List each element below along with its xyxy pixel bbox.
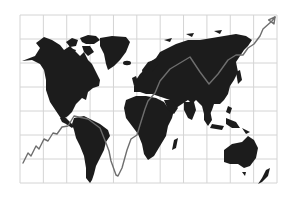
new-zealand-shape bbox=[258, 168, 270, 184]
arctic-islands-shape bbox=[66, 35, 100, 56]
south-america-shape bbox=[72, 116, 110, 183]
india-shape bbox=[184, 102, 196, 120]
japan-shape bbox=[236, 70, 242, 84]
australia-shape bbox=[224, 136, 258, 168]
tasmania-shape bbox=[242, 172, 246, 176]
iceland-shape bbox=[123, 61, 131, 65]
philippines-shape bbox=[226, 106, 232, 114]
southeast-asia-shape bbox=[204, 110, 250, 134]
world-map-trend-illustration bbox=[0, 0, 294, 199]
madagascar-shape bbox=[172, 138, 178, 150]
